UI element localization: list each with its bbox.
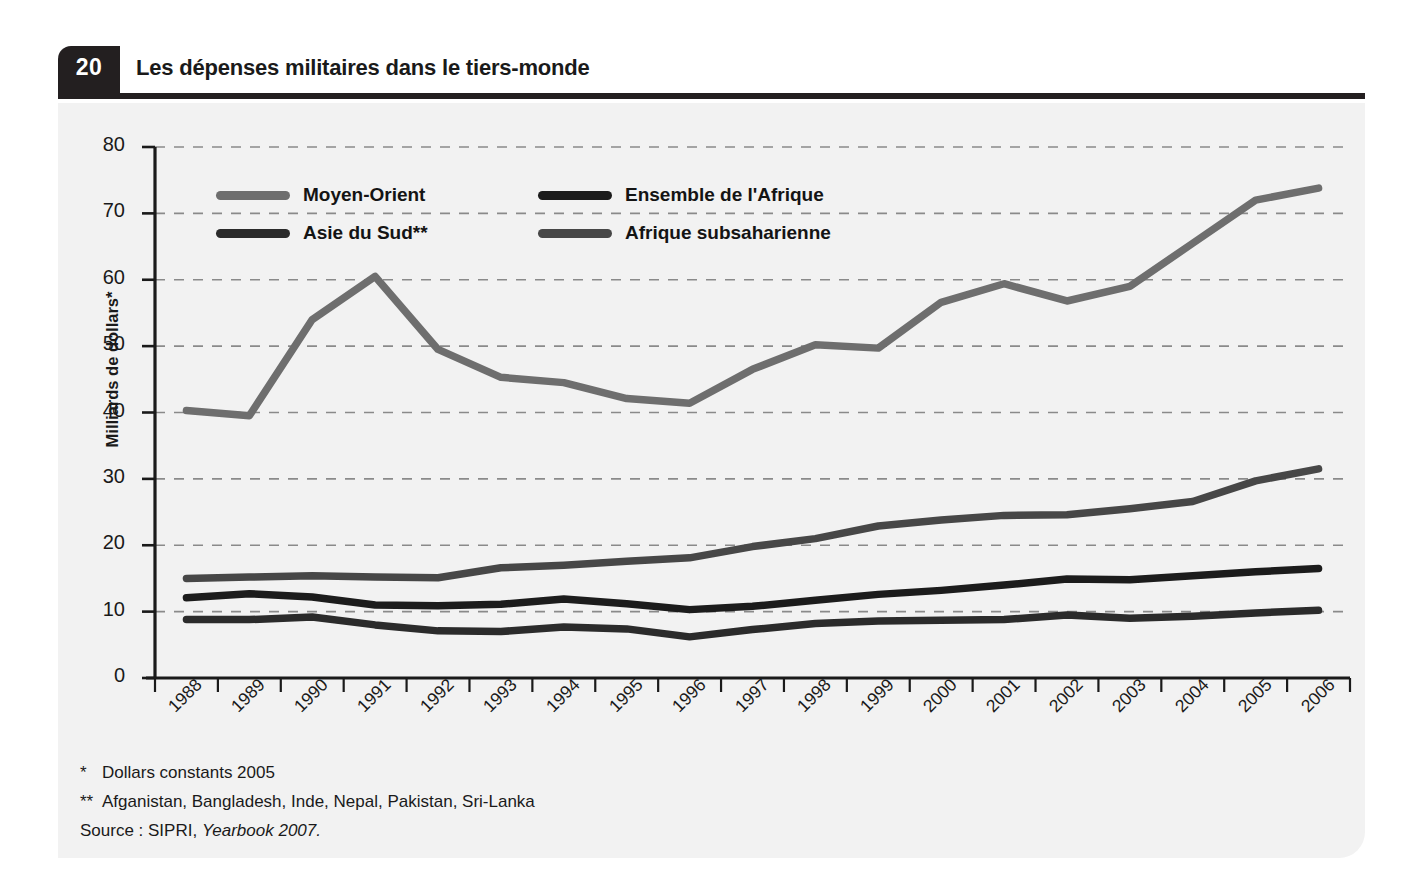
footnote-double-asterisk: **Afganistan, Bangladesh, Inde, Nepal, P… [80, 792, 980, 812]
y-tick-label: 60 [77, 266, 125, 289]
chart-legend: Moyen-Orient Ensemble de l'Afrique Asie … [216, 176, 836, 252]
y-tick-label: 20 [77, 531, 125, 554]
y-tick-label: 0 [77, 664, 125, 687]
legend-label: Afrique subsaharienne [625, 222, 831, 244]
footnote-text: Afganistan, Bangladesh, Inde, Nepal, Pak… [102, 792, 535, 811]
y-tick-label: 80 [77, 133, 125, 156]
page-number-badge: 20 [58, 46, 120, 88]
y-tick-label: 10 [77, 598, 125, 621]
footnote-text: Dollars constants 2005 [102, 763, 275, 782]
legend-row-2: Asie du Sud** Afrique subsaharienne [216, 214, 836, 252]
chart-panel [58, 46, 1365, 858]
legend-item-afrique-subsaharienne: Afrique subsaharienne [538, 222, 831, 244]
legend-swatch-icon [538, 229, 612, 238]
legend-item-asie-du-sud: Asie du Sud** [216, 222, 538, 244]
legend-swatch-icon [538, 191, 612, 200]
chart-page: 20 Les dépenses militaires dans le tiers… [0, 0, 1417, 893]
footnote-single-asterisk: *Dollars constants 2005 [80, 763, 980, 783]
y-tick-label: 30 [77, 465, 125, 488]
legend-swatch-icon [216, 191, 290, 200]
source-title: Yearbook 2007. [202, 821, 321, 840]
legend-row-1: Moyen-Orient Ensemble de l'Afrique [216, 176, 836, 214]
y-tick-label: 40 [77, 399, 125, 422]
legend-swatch-icon [216, 229, 290, 238]
legend-item-ensemble-afrique: Ensemble de l'Afrique [538, 184, 824, 206]
source-line: Source : SIPRI, Yearbook 2007. [80, 821, 980, 841]
chart-footnotes: *Dollars constants 2005 **Afganistan, Ba… [80, 763, 980, 850]
legend-label: Asie du Sud** [303, 222, 428, 244]
legend-label: Ensemble de l'Afrique [625, 184, 824, 206]
page-title: Les dépenses militaires dans le tiers-mo… [136, 55, 590, 81]
legend-label: Moyen-Orient [303, 184, 425, 206]
legend-item-moyen-orient: Moyen-Orient [216, 184, 538, 206]
footnote-mark: ** [80, 792, 102, 812]
header-rule-mask [120, 88, 1365, 93]
source-prefix: Source : SIPRI, [80, 821, 202, 840]
y-tick-label: 50 [77, 332, 125, 355]
y-tick-label: 70 [77, 199, 125, 222]
footnote-mark: * [80, 763, 102, 783]
